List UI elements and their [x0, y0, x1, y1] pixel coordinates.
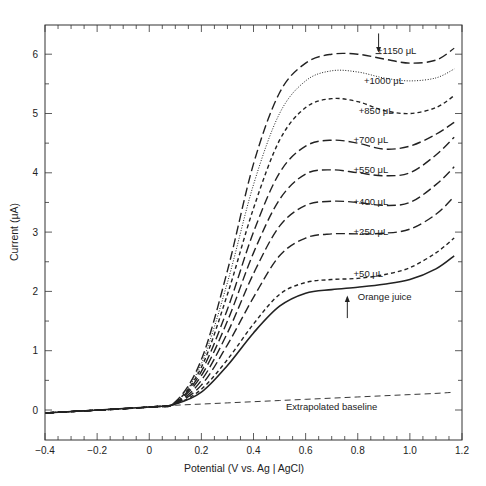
annotation-label: +1000 μL	[364, 75, 404, 86]
y-tick-label: 2	[32, 286, 38, 297]
y-axis-label: Current (μA)	[8, 203, 20, 261]
plot-frame	[45, 25, 462, 440]
y-tick-label: 5	[32, 108, 38, 119]
y-tick-label: 0	[32, 405, 38, 416]
series-850-l	[45, 96, 454, 413]
series-1150-l	[45, 48, 454, 413]
annotation-label: Extrapolated baseline	[286, 401, 377, 412]
tick-labels: −0.4−0.200.20.40.60.81.01.20123456	[32, 49, 469, 456]
annotation-label: +50 μL	[354, 268, 384, 279]
y-tick-label: 3	[32, 227, 38, 238]
series-250-l	[45, 197, 454, 413]
x-tick-label: −0.2	[87, 445, 107, 456]
x-tick-label: 0.8	[351, 445, 365, 456]
axis-ticks	[45, 25, 462, 440]
voltammogram-chart: −0.4−0.200.20.40.60.81.01.20123456 +1150…	[0, 0, 486, 486]
x-tick-label: 0.4	[247, 445, 261, 456]
annotation-label: +250 μL	[354, 226, 389, 237]
x-tick-label: 0.2	[194, 445, 208, 456]
series-400-l	[45, 167, 454, 413]
x-axis-label: Potential (V vs. Ag | AgCl)	[184, 462, 304, 474]
x-tick-label: 1.0	[403, 445, 417, 456]
annotation-label: Orange juice	[358, 291, 412, 302]
arrowhead-up-icon	[345, 296, 350, 303]
chart-container: −0.4−0.200.20.40.60.81.01.20123456 +1150…	[0, 0, 486, 486]
annotation-label: +1150 μL	[377, 45, 416, 56]
y-tick-label: 1	[32, 345, 38, 356]
x-tick-label: 0	[146, 445, 152, 456]
x-tick-label: −0.4	[35, 445, 55, 456]
series-orange-juice	[45, 256, 454, 413]
x-tick-label: 0.6	[299, 445, 313, 456]
y-tick-label: 6	[32, 49, 38, 60]
x-tick-label: 1.2	[455, 445, 469, 456]
y-tick-label: 4	[32, 167, 38, 178]
series-700-l	[45, 122, 454, 413]
curves-group	[45, 48, 454, 413]
annotation-label: +850 μL	[359, 105, 394, 116]
annotation-label: +400 μL	[354, 196, 389, 207]
annotations: +1150 μL+1000 μL+850 μL+700 μL+550 μL+40…	[286, 33, 416, 412]
annotation-label: +550 μL	[354, 164, 389, 175]
series-extrapolated-baseline	[45, 392, 454, 413]
series-1000-l	[45, 69, 454, 413]
annotation-label: +700 μL	[354, 134, 389, 145]
